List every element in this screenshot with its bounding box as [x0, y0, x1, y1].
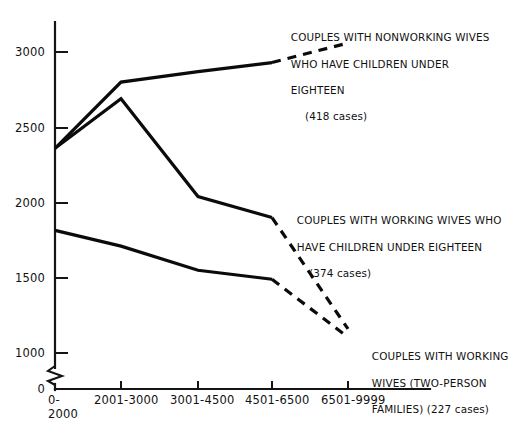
y-tick-label-3000: 3000	[15, 45, 45, 59]
series-label-nonworking-line3: EIGHTEEN	[291, 84, 345, 96]
series-label-twoperson-line3: FAMILIES) (227 cases)	[372, 403, 489, 415]
series-label-twoperson-line2: WIVES (TWO-PERSON	[372, 377, 487, 389]
y-tick-label-0: 0	[37, 382, 45, 396]
x-tick-label-3001-4500: 3001-4500	[170, 393, 234, 407]
series-label-working-wives-twoperson: COUPLES WITH WORKING WIVES (TWO-PERSON F…	[358, 337, 509, 429]
series-label-working-wives-children: COUPLES WITH WORKING WIVES WHO HAVE CHIL…	[283, 201, 502, 307]
x-tick-label-0-2000-line2: 2000	[48, 407, 78, 421]
series-label-working-children-line1: COUPLES WITH WORKING WIVES WHO	[297, 214, 502, 226]
x-tick-label-4501-6500: 4501-6500	[245, 393, 309, 407]
x-tick-label-0-2000-line1: 0-	[48, 393, 60, 407]
y-tick-label-1000: 1000	[15, 346, 45, 360]
series-label-working-children-cases: (374 cases)	[283, 267, 502, 280]
series-label-nonworking-wives: COUPLES WITH NONWORKING WIVES WHO HAVE C…	[277, 18, 490, 150]
series-label-nonworking-cases: (418 cases)	[277, 110, 490, 123]
series-label-nonworking-line2: WHO HAVE CHILDREN UNDER	[291, 58, 449, 70]
series-label-nonworking-line1: COUPLES WITH NONWORKING WIVES	[291, 31, 490, 43]
x-tick-label-2001-3000: 2001-3000	[94, 393, 158, 407]
series-label-twoperson-line1: COUPLES WITH WORKING	[372, 350, 509, 362]
y-tick-label-2500: 2500	[15, 121, 45, 135]
series-line-solid-couples-with-nonworking-wives-who-have-children-	[55, 63, 272, 149]
series-label-working-children-line2: HAVE CHILDREN UNDER EIGHTEEN	[297, 241, 482, 253]
y-tick-label-2000: 2000	[15, 196, 45, 210]
series-line-solid-couples-with-working-wives-two-person-families	[55, 230, 272, 279]
y-tick-label-1500: 1500	[15, 271, 45, 285]
